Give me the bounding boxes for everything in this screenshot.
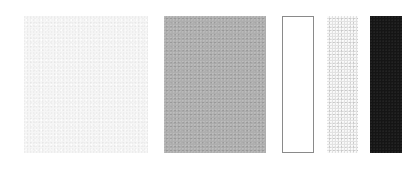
swatch-mid-gray (164, 16, 266, 153)
swatch-black (370, 16, 402, 153)
swatch-white-outlined (282, 16, 314, 153)
swatch-light-gray-speckled (327, 16, 358, 153)
swatch-very-light (24, 16, 148, 153)
